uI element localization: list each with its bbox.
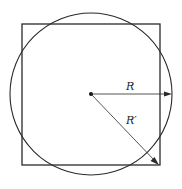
radius-r-prime-arrow [91, 94, 159, 165]
label-r: R [125, 80, 134, 93]
label-r-prime: R′ [125, 114, 137, 127]
diagram: R R′ [0, 0, 182, 189]
